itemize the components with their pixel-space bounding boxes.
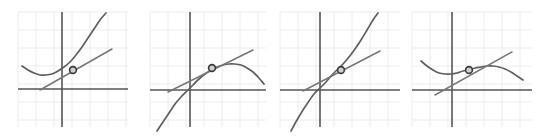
panel-4-point-marker [466,67,473,74]
function-curve [157,64,264,131]
graph-panel-4 [408,0,544,138]
graph-panel-1 [0,0,136,138]
tangency-point-marker [70,67,77,74]
graph-panel-3 [272,0,408,138]
tangency-point-marker [209,65,216,72]
panel-2-svg [136,0,272,138]
panel-4-svg [408,0,544,138]
tangency-point-marker [466,67,473,74]
panel-3-point-marker [338,67,345,74]
panel-3-svg [272,0,408,138]
panel-2-point-marker [209,65,216,72]
figure-container [0,0,544,138]
panel-1-point-marker [70,67,77,74]
panel-1-svg [0,0,136,138]
panel-2-curve [157,64,264,131]
tangency-point-marker [338,67,345,74]
graph-panel-2 [136,0,272,138]
